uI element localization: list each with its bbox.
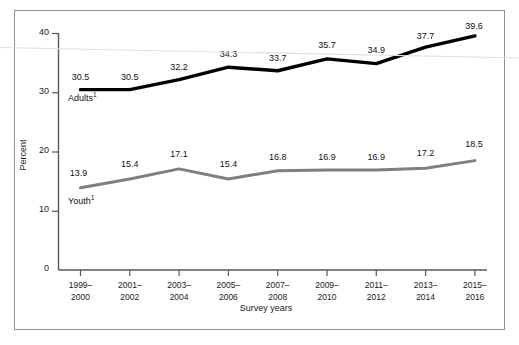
- y-tick-label-30: 30: [25, 86, 49, 96]
- series-label-youth-text: Youth: [68, 196, 91, 206]
- value-label-youth-0: 13.9: [59, 168, 99, 178]
- x-tick-label-3-line2: 2006: [204, 292, 252, 304]
- x-tick-label-4: 2007– 2008: [254, 280, 302, 303]
- x-tick-label-2-line1: 2003–: [155, 280, 203, 292]
- value-label-adults-4: 33.7: [258, 53, 298, 63]
- value-label-adults-0: 30.5: [61, 72, 101, 82]
- series-label-youth-footnote: 1: [91, 194, 95, 201]
- x-tick-label-3: 2005– 2006: [204, 280, 252, 303]
- series-label-youth: Youth1: [68, 194, 94, 206]
- value-label-adults-5: 35.7: [307, 40, 347, 50]
- y-tick-label-10: 10: [25, 204, 49, 214]
- value-label-youth-1: 15.4: [110, 159, 150, 169]
- value-label-youth-8: 18.5: [454, 139, 494, 149]
- value-label-adults-6: 34.9: [356, 45, 396, 55]
- x-tick-label-3-line1: 2005–: [204, 280, 252, 292]
- y-tick-label-40: 40: [25, 27, 49, 37]
- x-tick-label-6: 2011– 2012: [352, 280, 400, 303]
- x-tick-label-5: 2009– 2010: [303, 280, 351, 303]
- x-tick-label-4-line2: 2008: [254, 292, 302, 304]
- value-label-adults-3: 34.3: [208, 49, 248, 59]
- value-label-adults-7: 37.7: [406, 31, 446, 41]
- x-tick-label-6-line1: 2011–: [352, 280, 400, 292]
- x-tick-label-8: 2015– 2016: [451, 280, 499, 303]
- value-label-adults-8: 39.6: [454, 21, 494, 31]
- series-label-adults: Adults1: [68, 91, 97, 103]
- x-tick-label-8-line1: 2015–: [451, 280, 499, 292]
- y-tick-label-0: 0: [25, 263, 49, 273]
- value-label-youth-6: 16.9: [356, 152, 396, 162]
- x-tick-label-1-line2: 2002: [106, 292, 154, 304]
- x-tick-label-7: 2013– 2014: [402, 280, 450, 303]
- x-tick-label-7-line1: 2013–: [402, 280, 450, 292]
- value-label-adults-1: 30.5: [110, 72, 150, 82]
- series-label-adults-text: Adults: [68, 93, 93, 103]
- x-tick-label-0-line1: 1999–: [57, 280, 105, 292]
- value-label-youth-3: 15.4: [208, 159, 248, 169]
- x-tick-label-4-line1: 2007–: [254, 280, 302, 292]
- x-tick-label-1: 2001– 2002: [106, 280, 154, 303]
- x-tick-label-2-line2: 2004: [155, 292, 203, 304]
- x-tick-label-6-line2: 2012: [352, 292, 400, 304]
- x-tick-label-5-line2: 2010: [303, 292, 351, 304]
- y-axis-title: Percent: [18, 125, 28, 185]
- x-tick-label-0: 1999– 2000: [57, 280, 105, 303]
- series-label-adults-footnote: 1: [93, 91, 97, 98]
- x-tick-label-2: 2003– 2004: [155, 280, 203, 303]
- figure-root: 40 30 20 10 0 Percent 1999– 2000 2001– 2…: [0, 0, 519, 345]
- x-tick-label-1-line1: 2001–: [106, 280, 154, 292]
- value-label-adults-2: 32.2: [159, 62, 199, 72]
- x-tick-label-7-line2: 2014: [402, 292, 450, 304]
- x-tick-label-5-line1: 2009–: [303, 280, 351, 292]
- y-tick-label-20: 20: [25, 145, 49, 155]
- value-label-youth-4: 16.8: [258, 152, 298, 162]
- value-label-youth-7: 17.2: [406, 148, 446, 158]
- x-axis-title: Survey years: [226, 303, 306, 313]
- x-tick-label-8-line2: 2016: [451, 292, 499, 304]
- x-tick-label-0-line2: 2000: [57, 292, 105, 304]
- value-label-youth-5: 16.9: [307, 152, 347, 162]
- value-label-youth-2: 17.1: [159, 149, 199, 159]
